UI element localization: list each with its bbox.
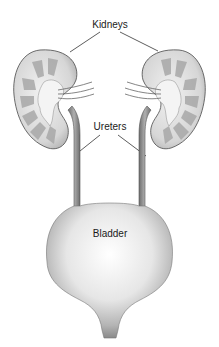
ureters-label: Ureters <box>94 122 127 132</box>
kidneys-leader-lines <box>70 32 158 52</box>
right-ureter <box>139 106 151 210</box>
urinary-system-diagram: Kidneys Ureters Bladder <box>0 0 219 347</box>
ureters-leader-lines <box>75 135 146 156</box>
right-kidney <box>125 50 205 149</box>
bladder-label: Bladder <box>93 229 127 239</box>
bladder <box>46 203 172 338</box>
kidneys-label: Kidneys <box>92 20 128 30</box>
left-ureter <box>68 106 80 210</box>
left-kidney <box>14 50 94 149</box>
